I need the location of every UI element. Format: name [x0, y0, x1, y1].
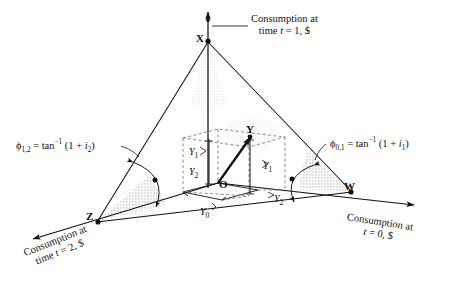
- formula-left-phi-sub: 1,2: [22, 146, 31, 154]
- vertex-label-w: W: [344, 180, 355, 192]
- segment-label-y1-right-sub: 1: [269, 165, 273, 174]
- vertex-label-o: O: [219, 178, 228, 190]
- leader-left-formula: [121, 146, 139, 157]
- formula-left-arg-pre: (1 +: [62, 140, 85, 151]
- segment-label-y2-base: Y2: [274, 193, 283, 207]
- axis-caption-time1-line1: Consumption at: [251, 13, 318, 25]
- segment-label-y2-base-sub: 2: [280, 198, 284, 207]
- formula-phi-0-1: ϕ0,1 = tan−1 (1 + i1): [330, 136, 409, 152]
- formula-right-phi-sub: 0,1: [336, 144, 345, 152]
- shaded-wedge-right: [296, 150, 350, 196]
- axis-caption-time1-pre: time: [259, 25, 280, 36]
- segment-label-y0-base: Y0: [200, 206, 209, 220]
- segment-label-y1-right: Y1: [263, 160, 272, 174]
- dot-Y: [248, 135, 253, 140]
- edge-x-w: [208, 42, 352, 192]
- leader-right-formula: [315, 144, 326, 160]
- segment-label-y2-left-sub: 2: [195, 171, 199, 180]
- axes: [33, 12, 414, 239]
- dot-X: [205, 38, 210, 43]
- axis-caption-time1: Consumption at time t = 1, $: [251, 13, 318, 37]
- formula-phi-1-2: ϕ1,2 = tan−1 (1 + i2): [16, 138, 95, 154]
- diagram-canvas: X Z W O Y Consumption at time t = 1, $ C…: [0, 0, 449, 282]
- segment-label-y2-left: Y2: [189, 166, 198, 180]
- segment-label-y1-left-sub: 1: [195, 151, 199, 160]
- dot-axis-top: [206, 18, 210, 22]
- vertex-label-y: Y: [246, 123, 254, 135]
- vertex-label-x: X: [196, 32, 204, 44]
- formula-right-eq: = tan: [345, 138, 369, 149]
- shaded-wedge-apex: [190, 42, 228, 112]
- dot-Z: [95, 219, 100, 224]
- axis-caption-time1-post: = 1, $: [283, 25, 310, 36]
- vertex-label-z: Z: [86, 210, 93, 222]
- formula-right-arg-post: ): [405, 138, 409, 149]
- segment-label-y1-left: Y1: [189, 146, 198, 160]
- formula-right-arg-pre: (1 +: [376, 138, 399, 149]
- axis-caption-time1-line2: time t = 1, $: [251, 25, 318, 37]
- measure-ticks: [200, 140, 274, 210]
- formula-left-eq: = tan: [31, 140, 55, 151]
- segment-label-y0-base-sub: 0: [206, 211, 210, 220]
- formula-left-arg-post: ): [91, 140, 95, 151]
